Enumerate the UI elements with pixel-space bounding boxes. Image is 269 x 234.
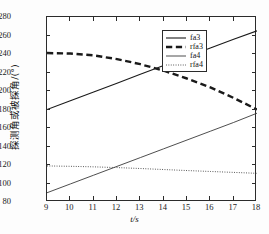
legend-label-fa4: fa4: [190, 52, 200, 60]
chart-figure: 80100120140160180200220240260280 9101112…: [0, 0, 269, 234]
x-axis-label: t/s: [0, 214, 269, 224]
y-tick-mark: [46, 72, 50, 73]
x-tick-label: 11: [83, 203, 103, 212]
x-tick-mark: [233, 196, 234, 201]
x-tick-mark-top: [93, 16, 94, 21]
x-tick-mark-top: [69, 16, 70, 21]
series-line-fa3: [47, 31, 257, 110]
legend-label-rfa4: rfa4: [190, 61, 203, 69]
y-tick-mark: [46, 164, 50, 165]
x-tick-mark-top: [186, 16, 187, 21]
x-tick-label: 9: [36, 203, 56, 212]
y-tick-mark-right: [252, 146, 256, 147]
x-tick-mark: [163, 196, 164, 201]
y-tick-label: 80: [0, 197, 11, 205]
y-tick-mark: [46, 53, 50, 54]
x-tick-label: 12: [106, 203, 126, 212]
legend-label-fa3: fa3: [190, 34, 200, 42]
x-tick-label: 14: [153, 203, 173, 212]
y-tick-mark-right: [252, 72, 256, 73]
x-tick-mark-top: [163, 16, 164, 21]
x-tick-label: 18: [246, 203, 266, 212]
y-tick-mark-right: [252, 35, 256, 36]
x-tick-mark-top: [116, 16, 117, 21]
series-line-rfa4: [47, 166, 257, 173]
y-tick-mark: [46, 35, 50, 36]
x-tick-label: 10: [59, 203, 79, 212]
series-canvas: [47, 17, 257, 202]
series-line-fa4: [47, 113, 257, 193]
legend-swatch-rfa4: [165, 61, 187, 69]
x-tick-label: 16: [199, 203, 219, 212]
y-tick-mark-right: [252, 127, 256, 128]
legend-item-fa3[interactable]: fa3: [165, 33, 203, 42]
x-tick-mark: [186, 196, 187, 201]
x-tick-mark: [209, 196, 210, 201]
y-tick-mark-right: [252, 90, 256, 91]
legend-item-fa4[interactable]: fa4: [165, 51, 203, 60]
plot-area: [46, 16, 256, 201]
x-tick-mark: [69, 196, 70, 201]
y-tick-mark: [46, 146, 50, 147]
legend-item-rfa3[interactable]: rfa3: [165, 42, 203, 51]
legend-item-rfa4[interactable]: rfa4: [165, 60, 203, 69]
x-tick-mark-top: [233, 16, 234, 21]
y-tick-mark-right: [252, 183, 256, 184]
x-tick-label: 13: [129, 203, 149, 212]
y-tick-mark: [46, 90, 50, 91]
y-tick-mark: [46, 109, 50, 110]
x-tick-mark-top: [139, 16, 140, 21]
x-tick-mark: [93, 196, 94, 201]
x-tick-label: 17: [223, 203, 243, 212]
y-tick-mark-right: [252, 53, 256, 54]
y-tick-mark-right: [252, 109, 256, 110]
legend-swatch-rfa3: [165, 43, 187, 51]
x-tick-mark: [139, 196, 140, 201]
x-tick-label: 15: [176, 203, 196, 212]
legend-swatch-fa3: [165, 34, 187, 42]
x-axis-label-text: t/s: [130, 214, 139, 224]
y-tick-mark: [46, 183, 50, 184]
series-line-rfa3: [47, 53, 257, 109]
y-tick-mark-right: [252, 164, 256, 165]
x-tick-mark-top: [209, 16, 210, 21]
legend-label-rfa3: rfa3: [190, 43, 203, 51]
y-axis-label: 探测角或被探角/(°): [7, 27, 21, 187]
x-tick-mark: [116, 196, 117, 201]
legend: fa3rfa3fa4rfa4: [162, 30, 207, 72]
y-tick-label: 280: [0, 12, 11, 20]
y-tick-mark: [46, 127, 50, 128]
legend-swatch-fa4: [165, 52, 187, 60]
